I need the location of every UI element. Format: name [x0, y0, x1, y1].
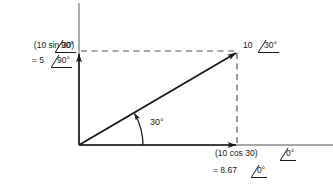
horizontal-component-expression: (10 cos 30) [215, 148, 258, 158]
vertical-component-angle-value: 90° [61, 40, 74, 50]
angle-symbol-icon: 90° [50, 55, 72, 66]
angle-arc-value: 30° [150, 117, 164, 127]
horizontal-component-value: = 8.67 [213, 165, 237, 175]
figure-canvas: (10 sin 30) 90° = 5 90° 10 30° 30° (10 c… [0, 0, 333, 186]
angle-arc [135, 114, 144, 146]
resultant-magnitude-label: 10 [243, 40, 252, 51]
horizontal-component-angle-label: 0° [277, 148, 296, 159]
resultant-angle-value: 30° [264, 40, 277, 50]
horizontal-component-angle-value: 0° [286, 148, 294, 158]
vertical-component-value-label: = 5 [6, 55, 44, 66]
horizontal-component-label: (10 cos 30) [215, 148, 258, 159]
resultant-angle-label: 30° [255, 40, 279, 51]
vertical-component-value-angle: 90° [57, 55, 70, 65]
resultant-magnitude: 10 [243, 40, 252, 50]
resultant-vector [79, 53, 236, 145]
horizontal-component-value-angle: 0° [257, 165, 265, 175]
angle-symbol-icon: 90° [54, 40, 76, 51]
vertical-component-angle: 90° [52, 40, 76, 51]
angle-arc-label: 30° [150, 117, 164, 128]
angle-symbol-icon: 0° [279, 148, 296, 159]
horizontal-component-value-angle-label: 0° [248, 165, 267, 176]
angle-symbol-icon: 30° [257, 40, 279, 51]
horizontal-component-value-label: = 8.67 [213, 165, 237, 176]
vertical-component-value-angle-label: 90° [48, 55, 72, 66]
angle-symbol-icon: 0° [250, 165, 267, 176]
vertical-component-value: = 5 [32, 55, 44, 65]
